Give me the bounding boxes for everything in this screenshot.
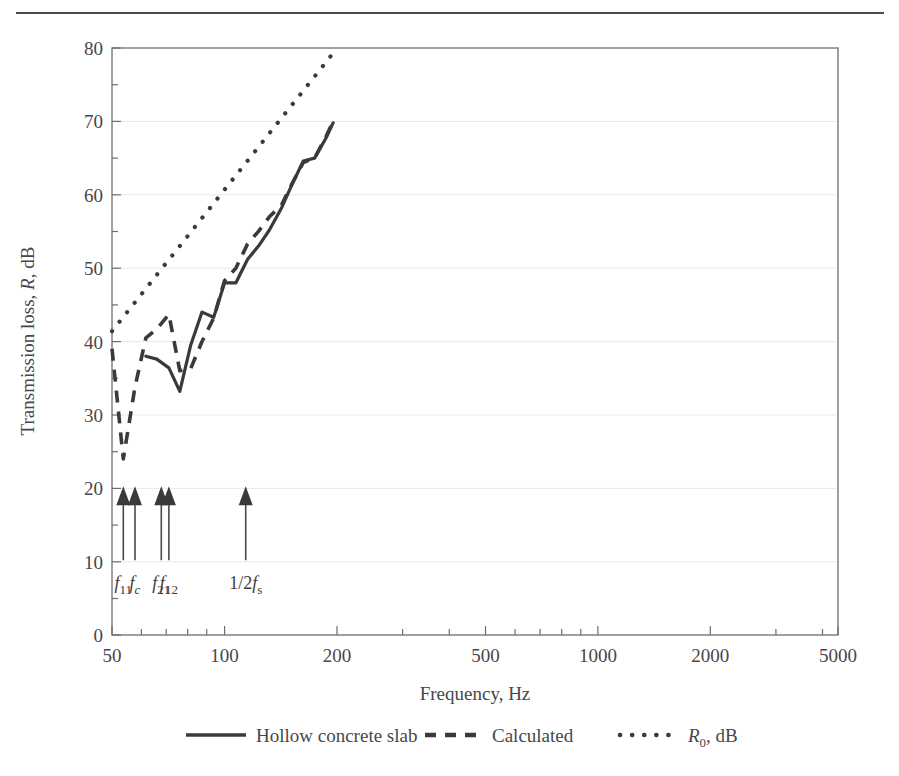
y-axis-title-tail: , dB xyxy=(17,247,38,279)
y-tick-label: 0 xyxy=(94,625,104,646)
annotation-arrows xyxy=(116,486,252,560)
series-r0-dotted xyxy=(112,48,337,331)
annotation-arrow-fc xyxy=(128,486,142,560)
annotation-label-half-fs: 1/2fs xyxy=(229,573,262,597)
figure-container: 80 70 60 50 40 30 20 10 0 xyxy=(0,0,899,776)
x-axis-ticks xyxy=(112,626,838,635)
annotation-labels: f11 fc f21 f12 1/2fs xyxy=(115,573,263,597)
x-tick-label: 2000 xyxy=(691,645,729,666)
y-axis-ticks xyxy=(112,48,121,635)
y-tick-label: 80 xyxy=(84,38,103,59)
y-tick-label: 40 xyxy=(84,332,103,353)
y-tick-label: 50 xyxy=(84,258,103,279)
x-tick-label: 5000 xyxy=(819,645,857,666)
transmission-loss-chart: 80 70 60 50 40 30 20 10 0 xyxy=(0,0,899,776)
x-tick-label: 1000 xyxy=(579,645,617,666)
y-tick-label: 20 xyxy=(84,478,103,499)
y-tick-label: 70 xyxy=(84,111,103,132)
y-axis-title-main: Transmission loss, xyxy=(17,290,38,436)
y-tick-label: 30 xyxy=(84,405,103,426)
x-tick-labels: 50 100 200 500 1000 2000 5000 xyxy=(103,645,858,666)
x-axis-title: Frequency, Hz xyxy=(420,683,531,704)
annotation-arrow-half-fs xyxy=(239,486,253,560)
legend-label-hollow-concrete-slab: Hollow concrete slab xyxy=(256,725,417,746)
y-tick-label: 10 xyxy=(84,552,103,573)
y-tick-labels: 80 70 60 50 40 30 20 10 0 xyxy=(84,38,103,646)
x-tick-label: 200 xyxy=(323,645,352,666)
y-axis-title-symbol: R xyxy=(17,278,38,291)
y-tick-label: 60 xyxy=(84,185,103,206)
x-tick-label: 50 xyxy=(103,645,122,666)
gridlines xyxy=(112,121,838,561)
x-tick-label: 100 xyxy=(210,645,239,666)
y-axis-title: Transmission loss, R, dB xyxy=(17,247,38,436)
annotation-arrow-f11 xyxy=(116,486,130,560)
svg-text:Transmission loss, R, dB: Transmission loss, R, dB xyxy=(17,247,38,436)
legend-label-r0: R0, dB xyxy=(687,725,738,750)
chart-legend: Hollow concrete slab Calculated R0, dB xyxy=(186,725,738,750)
legend-label-calculated: Calculated xyxy=(492,725,574,746)
x-tick-label: 500 xyxy=(471,645,500,666)
